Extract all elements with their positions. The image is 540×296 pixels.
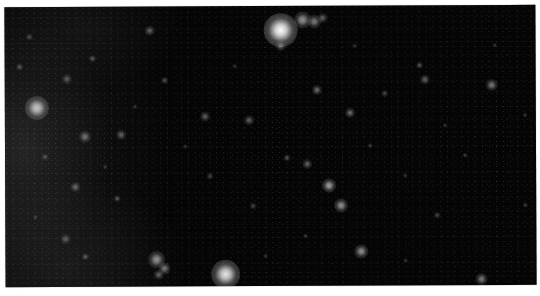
star — [345, 108, 355, 118]
star — [403, 258, 408, 263]
star — [33, 215, 38, 220]
star — [79, 131, 91, 143]
star — [522, 112, 527, 117]
star — [244, 115, 254, 125]
star — [486, 79, 498, 91]
star — [183, 144, 188, 149]
star — [420, 75, 430, 85]
star — [70, 182, 80, 192]
star — [302, 159, 312, 169]
star — [312, 85, 322, 95]
star — [276, 41, 286, 51]
star-field-photo — [4, 5, 536, 287]
star — [318, 13, 328, 23]
star — [145, 26, 155, 36]
star — [263, 254, 268, 259]
star — [154, 270, 164, 280]
star — [103, 164, 108, 169]
star — [523, 202, 528, 207]
star — [232, 64, 237, 69]
star — [303, 233, 308, 238]
star — [25, 96, 49, 120]
star — [403, 173, 408, 178]
star — [200, 111, 210, 121]
star — [443, 123, 448, 128]
star — [463, 153, 468, 158]
star — [62, 74, 72, 84]
star — [476, 273, 488, 285]
star — [116, 130, 126, 140]
star — [492, 43, 497, 48]
star — [61, 234, 71, 244]
star — [368, 143, 373, 148]
faint-stars-texture — [4, 5, 536, 287]
star — [132, 104, 137, 109]
star — [211, 260, 240, 287]
star — [352, 43, 357, 48]
